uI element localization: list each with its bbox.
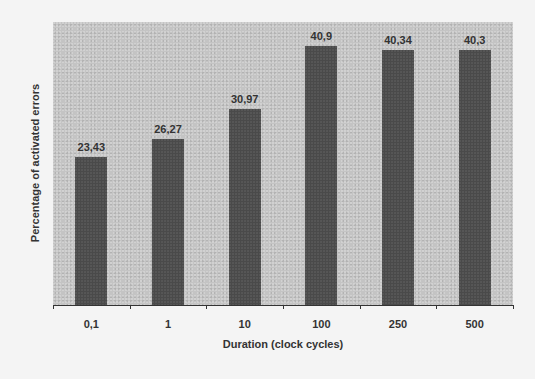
x-axis-tick <box>53 305 54 309</box>
x-axis-tick <box>513 305 514 309</box>
bar-value-label: 40,34 <box>368 34 428 46</box>
bar <box>229 109 261 305</box>
bar-value-label: 30,97 <box>215 93 275 105</box>
bar-value-label: 26,27 <box>138 123 198 135</box>
x-axis-tick <box>283 305 284 309</box>
x-axis-tick <box>436 305 437 309</box>
bar <box>459 50 491 305</box>
x-axis-category-label: 500 <box>445 318 505 330</box>
bar-chart: 23,430,126,27130,971040,910040,3425040,3… <box>0 0 535 379</box>
bar <box>305 46 337 305</box>
x-axis-tick <box>360 305 361 309</box>
y-axis-title: Percentage of activated errors <box>29 84 41 242</box>
bar <box>152 139 184 305</box>
plot-area <box>53 22 513 305</box>
x-axis-category-label: 0,1 <box>61 318 121 330</box>
bar <box>75 157 107 305</box>
bar-value-label: 40,3 <box>445 34 505 46</box>
x-axis-tick <box>206 305 207 309</box>
x-axis-category-label: 10 <box>215 318 275 330</box>
bar-value-label: 40,9 <box>291 30 351 42</box>
bar-value-label: 23,43 <box>61 141 121 153</box>
x-axis-category-label: 250 <box>368 318 428 330</box>
x-axis-category-label: 100 <box>291 318 351 330</box>
bar <box>382 50 414 305</box>
x-axis-category-label: 1 <box>138 318 198 330</box>
x-axis-title: Duration (clock cycles) <box>53 338 513 350</box>
x-axis-tick <box>130 305 131 309</box>
